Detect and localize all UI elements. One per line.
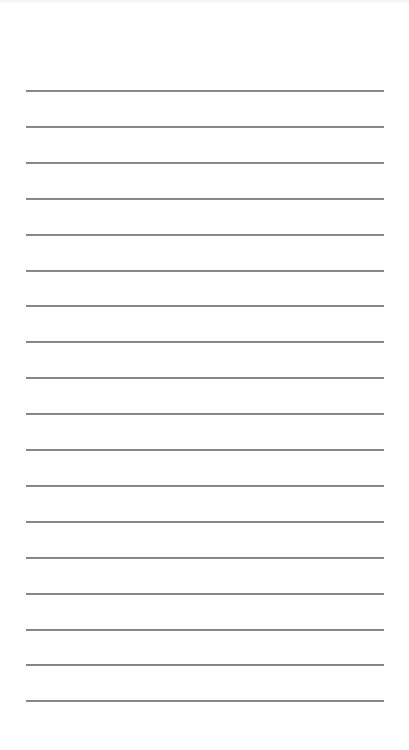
ruled-line <box>26 341 384 343</box>
ruled-line <box>26 557 384 559</box>
ruled-line <box>26 700 384 702</box>
ruled-line <box>26 593 384 595</box>
lined-paper-page <box>0 0 409 750</box>
ruled-lines-container <box>0 0 409 750</box>
ruled-line <box>26 162 384 164</box>
ruled-line <box>26 664 384 666</box>
ruled-line <box>26 234 384 236</box>
ruled-line <box>26 413 384 415</box>
ruled-line <box>26 305 384 307</box>
ruled-line <box>26 90 384 92</box>
ruled-line <box>26 485 384 487</box>
ruled-line <box>26 198 384 200</box>
ruled-line <box>26 629 384 631</box>
ruled-line <box>26 521 384 523</box>
ruled-line <box>26 270 384 272</box>
ruled-line <box>26 449 384 451</box>
ruled-line <box>26 377 384 379</box>
ruled-line <box>26 126 384 128</box>
